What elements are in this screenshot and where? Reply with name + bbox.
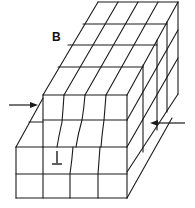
left-arrow-icon	[9, 102, 38, 108]
lattice-diagram	[0, 0, 195, 208]
dislocation-symbol-icon	[52, 151, 62, 164]
lattice-lines	[16, 2, 178, 198]
